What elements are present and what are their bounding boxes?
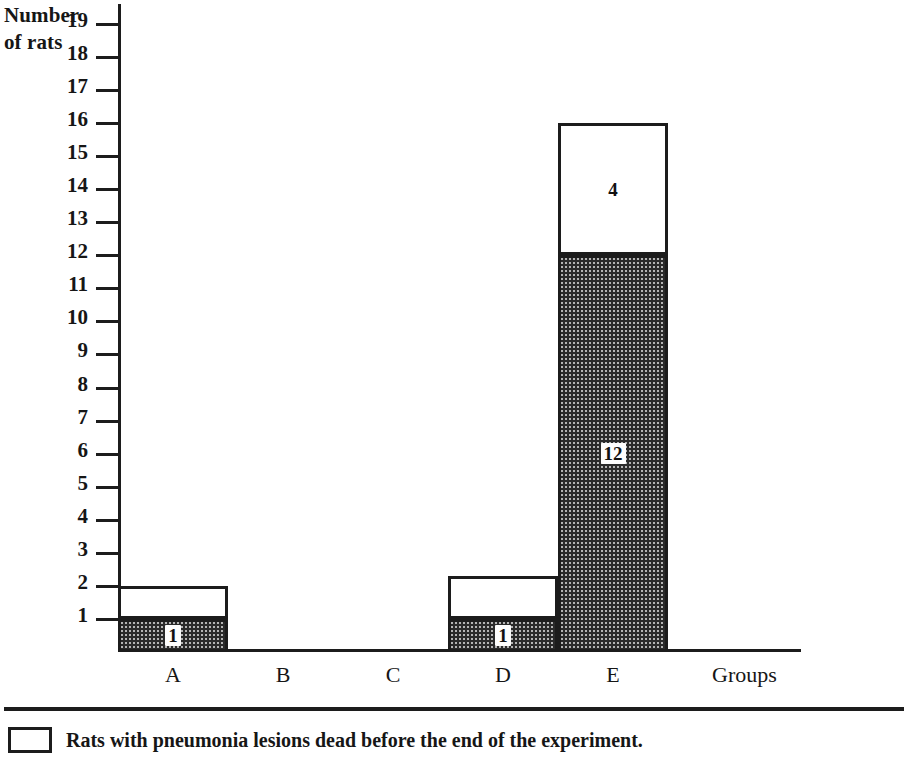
y-tick-label: 5	[36, 473, 88, 494]
y-tick-dash	[96, 89, 118, 92]
y-axis-line	[118, 4, 121, 652]
x-axis-label-e: E	[558, 662, 668, 688]
bar-segment-value: 4	[608, 180, 618, 199]
bar-a: 1	[118, 586, 228, 652]
y-tick-dash	[96, 353, 118, 356]
y-tick-dash	[96, 56, 118, 59]
y-tick-label: 4	[36, 506, 88, 527]
y-tick-dash	[96, 585, 118, 588]
bar-segment-white	[118, 586, 228, 619]
bar-segment-hatched: 1	[448, 619, 558, 652]
bar-e: 124	[558, 123, 668, 652]
y-tick-dash	[96, 453, 118, 456]
y-tick-label: 9	[36, 340, 88, 361]
x-axis-label-c: C	[338, 662, 448, 688]
legend: Rats with pneumonia lesions dead before …	[8, 727, 643, 753]
y-tick-label: 15	[36, 142, 88, 163]
y-tick-label: 18	[36, 43, 88, 64]
x-axis-label-d: D	[448, 662, 558, 688]
plot-area: 19181716151413121110987654321 11124 ABCD…	[118, 4, 801, 652]
y-tick-dash	[96, 221, 118, 224]
y-tick-label: 14	[36, 175, 88, 196]
bar-segment-value: 1	[495, 625, 511, 646]
y-tick-dash	[96, 618, 118, 621]
bar-segment-white: 4	[558, 123, 668, 255]
bar-d: 1	[448, 576, 558, 652]
y-tick-label: 11	[36, 274, 88, 295]
y-tick-label: 17	[36, 76, 88, 97]
y-tick-dash	[96, 486, 118, 489]
bar-segment-value: 1	[165, 625, 181, 646]
y-tick-label: 2	[36, 572, 88, 593]
y-tick-dash	[96, 122, 118, 125]
y-tick-label: 1	[36, 605, 88, 626]
y-tick-dash	[96, 552, 118, 555]
x-axis-title: Groups	[712, 662, 777, 688]
y-tick-dash	[96, 320, 118, 323]
y-tick-label: 10	[36, 307, 88, 328]
y-tick-label: 7	[36, 407, 88, 428]
y-tick-dash	[96, 420, 118, 423]
legend-label-white: Rats with pneumonia lesions dead before …	[66, 728, 643, 752]
y-tick-dash	[96, 23, 118, 26]
y-tick-label: 3	[36, 539, 88, 560]
y-tick-label: 16	[36, 109, 88, 130]
y-tick-dash	[96, 387, 118, 390]
bar-chart: Number of rats 1918171615141312111098765…	[0, 0, 911, 760]
legend-swatch-white	[8, 727, 52, 753]
bar-segment-white	[448, 576, 558, 619]
bar-segment-hatched: 12	[558, 255, 668, 652]
y-tick-label: 13	[36, 208, 88, 229]
bar-segment-hatched: 1	[118, 619, 228, 652]
y-tick-label: 19	[36, 10, 88, 31]
y-tick-dash	[96, 254, 118, 257]
y-tick-label: 12	[36, 241, 88, 262]
y-tick-label: 8	[36, 374, 88, 395]
footer-divider	[4, 707, 904, 711]
bar-segment-value: 12	[601, 443, 626, 464]
x-axis-label-b: B	[228, 662, 338, 688]
y-tick-dash	[96, 287, 118, 290]
x-axis-label-a: A	[118, 662, 228, 688]
y-tick-dash	[96, 155, 118, 158]
y-tick-dash	[96, 519, 118, 522]
y-tick-dash	[96, 188, 118, 191]
y-tick-label: 6	[36, 440, 88, 461]
